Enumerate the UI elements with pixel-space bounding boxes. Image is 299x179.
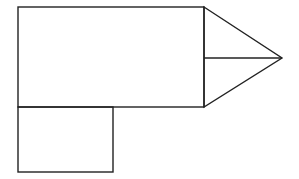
triangle (204, 7, 282, 107)
geometric-diagram (0, 0, 299, 179)
large-rectangle (18, 7, 204, 107)
small-square (18, 107, 113, 172)
